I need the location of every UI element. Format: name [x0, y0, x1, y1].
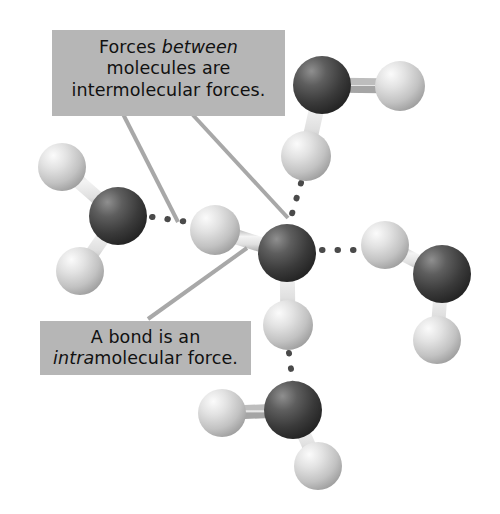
oxygen-atom — [293, 56, 351, 114]
hydrogen-atom — [375, 61, 425, 111]
atoms-group — [38, 56, 471, 490]
callout-intramolecular-line-1: A bond is an — [40, 327, 251, 348]
callout-intermolecular: Forces between molecules are intermolecu… — [52, 30, 285, 116]
hydrogen-atom — [281, 131, 331, 181]
oxygen-atom — [264, 381, 322, 439]
oxygen-atom — [258, 224, 316, 282]
covalent-bonds-group — [62, 85, 442, 466]
hydrogen-atom — [198, 389, 246, 437]
figure-canvas: Forces between molecules are intermolecu… — [0, 0, 500, 514]
hbond-center-to-bottom — [289, 353, 293, 385]
callout-intramolecular: A bond is an intramolecular force. — [40, 321, 251, 375]
callout-intermolecular-line-3: intermolecular forces. — [52, 80, 285, 101]
hydrogen-atom — [361, 221, 409, 269]
leader-line-intermolecular-right — [192, 114, 288, 218]
hydrogen-atom — [294, 442, 342, 490]
hydrogen-atom — [38, 143, 86, 191]
oxygen-atom — [89, 187, 147, 245]
callout-intermolecular-line-1: Forces between — [52, 37, 285, 58]
hbond-topright-to-center — [289, 183, 301, 224]
callout-intramolecular-line-2: intramolecular force. — [40, 348, 251, 369]
hydrogen-atom — [190, 205, 240, 255]
callout-intermolecular-line-2: molecules are — [52, 58, 285, 79]
oxygen-atom — [413, 245, 471, 303]
hydrogen-atom — [263, 300, 313, 350]
hydrogen-atom — [413, 316, 461, 364]
leader-line-intramolecular — [148, 248, 247, 319]
hydrogen-atom — [56, 247, 104, 295]
